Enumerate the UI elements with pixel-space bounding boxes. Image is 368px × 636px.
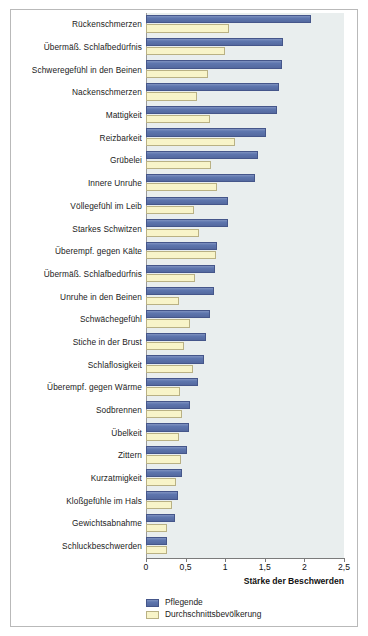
bar-pflegende xyxy=(146,38,283,46)
x-axis-tick-label: 0,5 xyxy=(180,563,192,572)
category-label: Überempf. gegen Kälte xyxy=(55,247,142,255)
x-axis-tick-label: 1 xyxy=(223,563,228,572)
bar-pflegende xyxy=(146,174,255,182)
bar-pair xyxy=(146,512,344,535)
bar-row: Reizbarkeit xyxy=(0,126,368,149)
category-label: Unruhe in den Beinen xyxy=(60,292,142,300)
bar-durchschnittsbevoelkerung xyxy=(146,387,180,395)
bar-pair xyxy=(146,126,344,149)
bar-durchschnittsbevoelkerung xyxy=(146,206,194,214)
bar-durchschnittsbevoelkerung xyxy=(146,478,176,486)
legend-swatch-blue-icon xyxy=(146,599,159,607)
category-label: Völlegefühl im Leib xyxy=(70,202,142,210)
bar-durchschnittsbevoelkerung xyxy=(146,410,182,418)
category-label: Überempf. gegen Wärme xyxy=(47,383,142,391)
bar-pflegende xyxy=(146,514,175,522)
bar-durchschnittsbevoelkerung xyxy=(146,183,217,191)
bar-row: Nackenschmerzen xyxy=(0,81,368,104)
bar-pair xyxy=(146,172,344,195)
bar-durchschnittsbevoelkerung xyxy=(146,138,235,146)
bar-durchschnittsbevoelkerung xyxy=(146,319,190,327)
bar-pair xyxy=(146,149,344,172)
bar-row: Überempf. gegen Wärme xyxy=(0,376,368,399)
category-label: Reizbarkeit xyxy=(100,134,142,142)
legend-item-pflegende: Pflegende xyxy=(146,597,261,608)
bar-pair xyxy=(146,421,344,444)
bar-row: Mattigkeit xyxy=(0,104,368,127)
bar-pflegende xyxy=(146,446,187,454)
bar-pair xyxy=(146,58,344,81)
bar-durchschnittsbevoelkerung xyxy=(146,524,167,532)
bar-pair xyxy=(146,444,344,467)
category-label: Grübelei xyxy=(110,156,142,164)
bar-pair xyxy=(146,467,344,490)
bar-durchschnittsbevoelkerung xyxy=(146,297,179,305)
legend-label-durchschnittsbevoelkerung: Durchschnittsbevölkerung xyxy=(165,610,261,618)
bar-pair xyxy=(146,81,344,104)
bar-pair xyxy=(146,195,344,218)
bar-row: Kloßgefühle im Hals xyxy=(0,489,368,512)
bar-row: Übermäß. Schlafbedürfnis xyxy=(0,263,368,286)
bar-row: Grübelei xyxy=(0,149,368,172)
bar-durchschnittsbevoelkerung xyxy=(146,24,229,32)
bar-rows-container: RückenschmerzenÜbermäß. SchlafbedürfnisS… xyxy=(0,13,368,558)
bar-durchschnittsbevoelkerung xyxy=(146,365,193,373)
category-label: Stiche in der Brust xyxy=(73,338,142,346)
bar-pflegende xyxy=(146,469,182,477)
bar-durchschnittsbevoelkerung xyxy=(146,92,197,100)
bar-row: Zittern xyxy=(0,444,368,467)
bar-pair xyxy=(146,217,344,240)
bar-pflegende xyxy=(146,197,228,205)
bar-durchschnittsbevoelkerung xyxy=(146,274,195,282)
legend-item-durchschnittsbevoelkerung: Durchschnittsbevölkerung xyxy=(146,609,261,620)
bar-durchschnittsbevoelkerung xyxy=(146,115,210,123)
bar-pair xyxy=(146,285,344,308)
bar-pflegende xyxy=(146,537,167,545)
bar-row: Übermäß. Schlafbedürfnis xyxy=(0,36,368,59)
bar-pflegende xyxy=(146,128,266,136)
bar-pflegende xyxy=(146,219,228,227)
bar-pflegende xyxy=(146,310,210,318)
bar-row: Überempf. gegen Kälte xyxy=(0,240,368,263)
legend-label-pflegende: Pflegende xyxy=(165,598,203,606)
bar-pair xyxy=(146,331,344,354)
bar-row: Innere Unruhe xyxy=(0,172,368,195)
bar-pflegende xyxy=(146,423,189,431)
category-label: Übelkeit xyxy=(111,429,142,437)
bar-row: Schluckbeschwerden xyxy=(0,535,368,558)
bar-durchschnittsbevoelkerung xyxy=(146,501,172,509)
bar-durchschnittsbevoelkerung xyxy=(146,342,184,350)
category-label: Kurzatmigkeit xyxy=(91,474,142,482)
bar-pflegende xyxy=(146,287,214,295)
chart-legend: Pflegende Durchschnittsbevölkerung xyxy=(146,597,261,621)
bar-pair xyxy=(146,376,344,399)
bar-pflegende xyxy=(146,151,258,159)
bar-row: Sodbrennen xyxy=(0,399,368,422)
bar-pflegende xyxy=(146,15,311,23)
chart-figure: RückenschmerzenÜbermäß. SchlafbedürfnisS… xyxy=(0,0,368,636)
bar-pair xyxy=(146,399,344,422)
category-label: Mattigkeit xyxy=(106,111,142,119)
bar-row: Übelkeit xyxy=(0,421,368,444)
bar-durchschnittsbevoelkerung xyxy=(146,161,211,169)
bar-pair xyxy=(146,36,344,59)
category-label: Schluckbeschwerden xyxy=(62,542,142,550)
category-label: Sodbrennen xyxy=(96,406,142,414)
bar-durchschnittsbevoelkerung xyxy=(146,251,216,259)
bar-pair xyxy=(146,489,344,512)
bar-durchschnittsbevoelkerung xyxy=(146,47,225,55)
category-label: Übermäß. Schlafbedürfnis xyxy=(44,270,142,278)
bar-pair xyxy=(146,104,344,127)
bar-durchschnittsbevoelkerung xyxy=(146,546,167,554)
bar-pflegende xyxy=(146,333,206,341)
bar-pflegende xyxy=(146,265,215,273)
bar-durchschnittsbevoelkerung xyxy=(146,433,179,441)
bar-row: Rückenschmerzen xyxy=(0,13,368,36)
bar-pflegende xyxy=(146,401,190,409)
x-axis-tick-label: 1,5 xyxy=(259,563,271,572)
bar-pflegende xyxy=(146,378,198,386)
bar-durchschnittsbevoelkerung xyxy=(146,229,199,237)
bar-row: Völlegefühl im Leib xyxy=(0,195,368,218)
category-label: Gewichtsabnahme xyxy=(72,519,142,527)
bar-pair xyxy=(146,240,344,263)
